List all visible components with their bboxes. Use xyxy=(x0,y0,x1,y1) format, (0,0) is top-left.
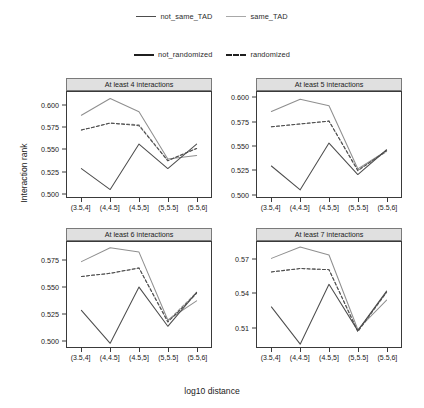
y-tick-label: 0.500 xyxy=(41,336,59,345)
x-tick-label: (5.5,6] xyxy=(187,204,207,211)
y-tick-label: 0.575 xyxy=(41,123,59,132)
dashed-line-swatch-icon xyxy=(226,54,246,56)
series-line xyxy=(271,143,386,190)
y-tick-label: 0.550 xyxy=(41,282,59,291)
legend-label: randomized xyxy=(250,50,290,59)
x-tick-mark xyxy=(271,348,272,352)
y-tick-label: 0.525 xyxy=(41,167,59,176)
x-axis: (3.5,4](4,4.5](4.5,5](5,5.5](5.5,6] xyxy=(66,348,212,374)
x-tick-label: (4,4.5] xyxy=(290,354,310,361)
plot-area xyxy=(256,241,402,348)
legend-item-same-tad: same_TAD xyxy=(226,12,287,21)
x-axis: (3.5,4](4,4.5](4.5,5](5,5.5](5.5,6] xyxy=(256,198,402,224)
x-tick-label: (5,5.5] xyxy=(158,354,178,361)
figure-root: not_same_TAD same_TAD not_randomized ran… xyxy=(0,0,424,408)
x-tick-mark xyxy=(329,348,330,352)
x-tick-mark xyxy=(358,348,359,352)
x-tick-mark xyxy=(271,198,272,202)
y-tick-label: 0.525 xyxy=(231,166,249,175)
y-tick-label: 0.550 xyxy=(41,145,59,154)
x-tick-mark xyxy=(110,348,111,352)
x-tick-label: (3.5,4] xyxy=(261,204,281,211)
x-tick-label: (4.5,5] xyxy=(319,204,339,211)
x-tick-mark xyxy=(197,348,198,352)
facet-panel: At least 4 interactions0.5000.5250.5500.… xyxy=(22,78,212,224)
x-tick-mark xyxy=(168,348,169,352)
series-line xyxy=(271,269,386,332)
x-tick-label: (3.5,4] xyxy=(261,354,281,361)
x-tick-label: (5,5.5] xyxy=(348,354,368,361)
x-tick-label: (4.5,5] xyxy=(129,204,149,211)
line-swatch-icon xyxy=(136,16,156,17)
plot-area xyxy=(66,91,212,198)
x-tick-mark xyxy=(168,198,169,202)
legend-label: same_TAD xyxy=(250,12,287,21)
series-line xyxy=(81,144,196,190)
y-axis: 0.510.540.57 xyxy=(212,241,256,348)
series-line xyxy=(81,287,196,343)
legend-item-not-same-tad: not_same_TAD xyxy=(136,12,212,21)
x-tick-mark xyxy=(139,348,140,352)
y-tick-label: 0.550 xyxy=(231,141,249,150)
x-tick-label: (3.5,4] xyxy=(71,204,91,211)
x-tick-mark xyxy=(387,198,388,202)
legend-randomization: not_randomized randomized xyxy=(0,50,424,59)
series-line xyxy=(271,247,386,329)
x-tick-mark xyxy=(110,198,111,202)
facet-panel: At least 7 interactions0.510.540.57(3.5,… xyxy=(212,228,402,374)
facet-panel: At least 5 interactions0.5000.5250.5500.… xyxy=(212,78,402,224)
legend-item-not-randomized: not_randomized xyxy=(134,50,212,59)
x-tick-label: (4,4.5] xyxy=(290,204,310,211)
plot-area xyxy=(256,91,402,198)
x-tick-mark xyxy=(300,198,301,202)
y-tick-label: 0.575 xyxy=(41,255,59,264)
y-tick-label: 0.600 xyxy=(41,100,59,109)
x-tick-label: (5.5,6] xyxy=(187,354,207,361)
series-line xyxy=(81,99,196,159)
series-line xyxy=(81,268,196,322)
panel-title: At least 5 interactions xyxy=(256,78,402,91)
x-tick-label: (5,5.5] xyxy=(348,204,368,211)
plot-area xyxy=(66,241,212,348)
x-axis: (3.5,4](4,4.5](4.5,5](5,5.5](5.5,6] xyxy=(256,348,402,374)
x-tick-label: (5,5.5] xyxy=(158,204,178,211)
legend-item-randomized: randomized xyxy=(226,50,290,59)
series-line xyxy=(81,123,196,161)
x-tick-label: (4,4.5] xyxy=(100,204,120,211)
x-axis: (3.5,4](4,4.5](4.5,5](5,5.5](5.5,6] xyxy=(66,198,212,224)
x-tick-mark xyxy=(300,348,301,352)
legend-tad: not_same_TAD same_TAD xyxy=(0,12,424,21)
legend-label: not_same_TAD xyxy=(160,12,212,21)
y-tick-label: 0.500 xyxy=(41,189,59,198)
x-tick-mark xyxy=(358,198,359,202)
x-tick-label: (4.5,5] xyxy=(129,354,149,361)
x-tick-label: (3.5,4] xyxy=(71,354,91,361)
series-line xyxy=(271,269,386,331)
y-tick-label: 0.51 xyxy=(235,323,249,332)
x-tick-label: (4.5,5] xyxy=(319,354,339,361)
facet-panel: At least 6 interactions0.5000.5250.5500.… xyxy=(22,228,212,374)
y-axis: 0.5000.5250.5500.5750.600 xyxy=(212,91,256,198)
x-tick-mark xyxy=(81,198,82,202)
panel-title: At least 7 interactions xyxy=(256,228,402,241)
y-tick-label: 0.600 xyxy=(231,93,249,102)
x-tick-mark xyxy=(329,198,330,202)
x-tick-mark xyxy=(139,198,140,202)
x-tick-label: (5.5,6] xyxy=(377,204,397,211)
legend-label: not_randomized xyxy=(158,50,212,59)
y-tick-label: 0.57 xyxy=(235,254,249,263)
x-tick-mark xyxy=(81,348,82,352)
x-axis-title: log10 distance xyxy=(0,386,424,396)
x-tick-label: (5.5,6] xyxy=(377,354,397,361)
x-tick-label: (4,4.5] xyxy=(100,354,120,361)
y-tick-label: 0.575 xyxy=(231,117,249,126)
x-tick-mark xyxy=(387,348,388,352)
solid-line-swatch-icon xyxy=(134,54,154,56)
panel-grid: At least 4 interactions0.5000.5250.5500.… xyxy=(0,78,424,378)
y-tick-label: 0.500 xyxy=(231,190,249,199)
x-tick-mark xyxy=(197,198,198,202)
y-axis: 0.5000.5250.5500.575 xyxy=(22,241,66,348)
y-tick-label: 0.54 xyxy=(235,289,249,298)
series-line xyxy=(271,284,386,344)
line-swatch-icon xyxy=(226,16,246,17)
